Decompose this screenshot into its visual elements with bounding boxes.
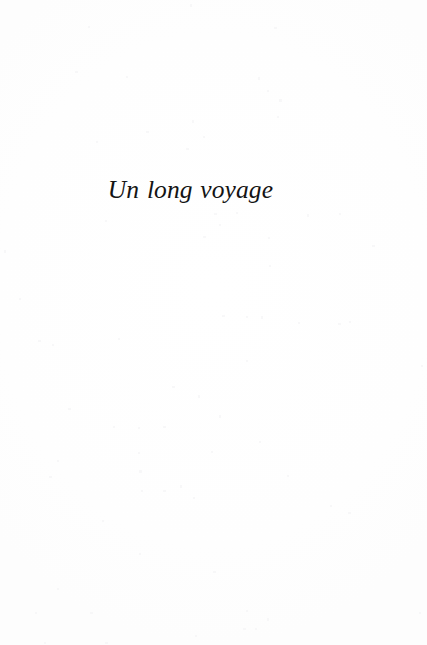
paper-grain-texture (0, 0, 427, 645)
part-title-block: Un long voyage (0, 176, 427, 204)
part-title: Un long voyage (108, 176, 273, 204)
scanned-book-page: Un long voyage (0, 0, 427, 645)
